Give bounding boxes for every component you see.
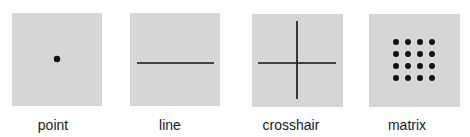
point-icon	[12, 13, 102, 106]
crosshair-panel	[252, 14, 343, 107]
matrix-label: matrix	[357, 117, 457, 133]
line-label: line	[120, 117, 220, 133]
matrix-panel	[369, 14, 460, 107]
line-panel	[130, 13, 220, 106]
crosshair-icon	[252, 14, 343, 107]
matrix-icon	[369, 14, 460, 107]
point-label: point	[3, 117, 103, 133]
point-panel	[12, 13, 102, 106]
line-icon	[130, 13, 220, 106]
crosshair-label: crosshair	[241, 117, 341, 133]
